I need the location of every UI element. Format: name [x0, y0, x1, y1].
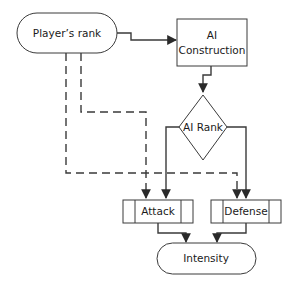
- node-defense-label: Defense: [224, 205, 267, 217]
- edge-players-rank-to-ai-construction: [117, 33, 176, 40]
- node-ai-rank-label: AI Rank: [183, 121, 224, 133]
- node-ai-construction-label-line1: AI: [207, 29, 217, 41]
- node-ai-rank: AI Rank: [179, 95, 227, 160]
- flowchart-diagram: Player’s rank AI Construction AI Rank At…: [0, 0, 297, 289]
- edge-ai-construction-to-ai-rank: [203, 66, 211, 92]
- edge-players-rank-to-attack-dashed: [81, 53, 146, 198]
- edge-defense-to-intensity: [217, 223, 246, 242]
- node-defense: Defense: [211, 200, 281, 223]
- node-attack: Attack: [123, 200, 193, 223]
- node-ai-construction: AI Construction: [177, 19, 247, 66]
- node-players-rank: Player’s rank: [17, 13, 117, 53]
- node-intensity-label: Intensity: [183, 252, 229, 264]
- edge-ai-rank-to-attack: [166, 127, 179, 198]
- edge-attack-to-intensity: [158, 223, 186, 242]
- node-players-rank-label: Player’s rank: [33, 27, 102, 39]
- node-ai-construction-label-line2: Construction: [179, 44, 246, 56]
- node-intensity: Intensity: [157, 243, 256, 274]
- node-attack-label: Attack: [141, 205, 175, 217]
